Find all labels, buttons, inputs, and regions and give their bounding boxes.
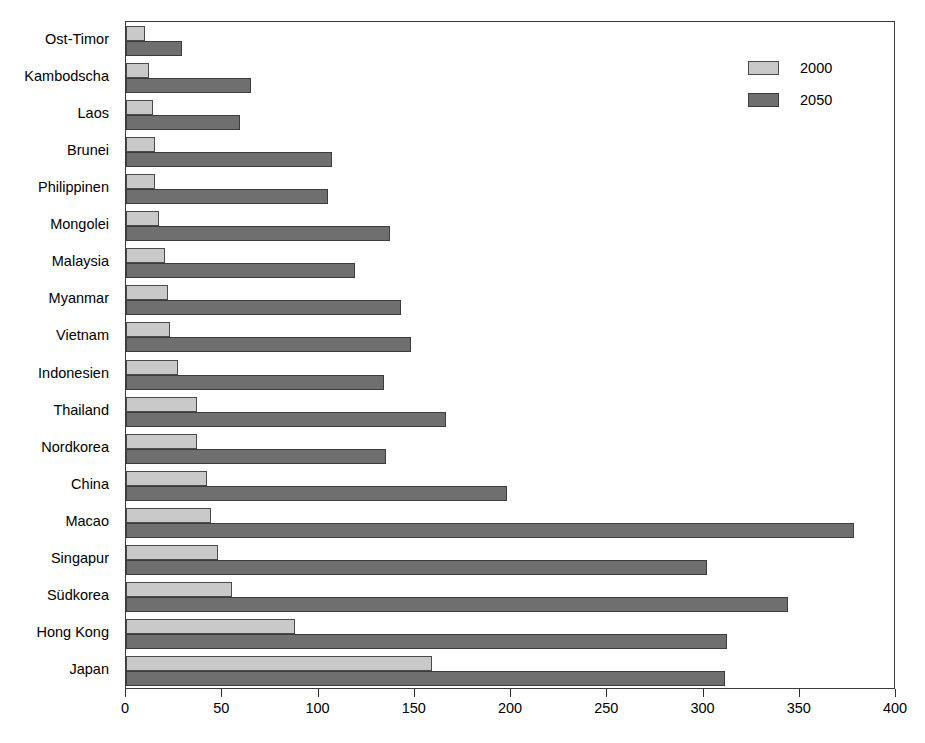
category-label: Ost-Timor [0, 32, 117, 46]
category-label: Philippinen [0, 180, 117, 194]
bar-2000-japan [126, 656, 432, 671]
bar-2000-indonesien [126, 360, 178, 375]
x-axis-tick-label: 400 [883, 700, 907, 716]
category-label: Vietnam [0, 328, 117, 342]
x-axis-tick-label: 300 [690, 700, 714, 716]
bar-chart: Ost-TimorKambodschaLaosBruneiPhilippinen… [0, 0, 925, 743]
category-label: Südkorea [0, 588, 117, 602]
category-label: China [0, 477, 117, 491]
bar-row [126, 619, 894, 649]
bar-2000-vietnam [126, 322, 170, 337]
bar-row [126, 285, 894, 315]
x-axis-tick [510, 689, 511, 697]
legend-swatch-icon [748, 93, 779, 107]
bar-2050-laos [126, 115, 240, 130]
bar-row [126, 656, 894, 686]
bar-row [126, 248, 894, 278]
x-axis: 050100150200250300350400 [125, 689, 895, 741]
bar-rows [126, 22, 894, 688]
bar-2050-hong-kong [126, 634, 727, 649]
category-label: Thailand [0, 403, 117, 417]
x-axis-tick-label: 200 [498, 700, 522, 716]
category-label: Malaysia [0, 254, 117, 268]
bar-2000-myanmar [126, 285, 168, 300]
bar-row [126, 137, 894, 167]
category-label: Japan [0, 662, 117, 676]
x-axis-tick [414, 689, 415, 697]
legend-label: 2000 [800, 60, 832, 76]
bar-row [126, 322, 894, 352]
legend-swatch-icon [748, 61, 779, 75]
category-label: Hong Kong [0, 625, 117, 639]
bar-row [126, 582, 894, 612]
x-axis-tick-label: 0 [121, 700, 129, 716]
bar-2050-brunei [126, 152, 332, 167]
bar-2050-kambodscha [126, 78, 251, 93]
x-axis-tick-label: 250 [594, 700, 618, 716]
plot-area [125, 21, 895, 689]
x-axis-tick-label: 100 [305, 700, 329, 716]
bar-2000-nordkorea [126, 434, 197, 449]
x-axis-tick-label: 350 [787, 700, 811, 716]
bar-row [126, 545, 894, 575]
legend-entry-2000: 2000 [748, 52, 878, 84]
bar-2050-indonesien [126, 375, 384, 390]
bar-2050-japan [126, 671, 725, 686]
bar-2000-singapur [126, 545, 218, 560]
bar-2000-kambodscha [126, 63, 149, 78]
bar-2050-macao [126, 523, 854, 538]
bar-2000-brunei [126, 137, 155, 152]
bar-row [126, 434, 894, 464]
bar-2000-china [126, 471, 207, 486]
bar-2050-myanmar [126, 300, 401, 315]
bar-2050-philippinen [126, 189, 328, 204]
bar-2000-laos [126, 100, 153, 115]
x-axis-tick [221, 689, 222, 697]
bar-2050-vietnam [126, 337, 411, 352]
bar-row [126, 174, 894, 204]
x-axis-tick [125, 689, 126, 697]
bar-2000-ost-timor [126, 26, 145, 41]
x-axis-tick-label: 150 [402, 700, 426, 716]
bar-2000-thailand [126, 397, 197, 412]
bar-row [126, 508, 894, 538]
bar-2050-nordkorea [126, 449, 386, 464]
category-label: Myanmar [0, 291, 117, 305]
bar-2050-thailand [126, 412, 446, 427]
bar-2050-malaysia [126, 263, 355, 278]
bar-2000-malaysia [126, 248, 165, 263]
x-axis-tick [799, 689, 800, 697]
bar-2000-s-dkorea [126, 582, 232, 597]
bar-2050-singapur [126, 560, 707, 575]
category-label: Macao [0, 514, 117, 528]
category-label: Kambodscha [0, 69, 117, 83]
bar-row [126, 471, 894, 501]
bar-2000-philippinen [126, 174, 155, 189]
x-axis-tick [895, 689, 896, 697]
x-axis-tick-label: 50 [213, 700, 229, 716]
bar-2050-mongolei [126, 226, 390, 241]
bar-2000-macao [126, 508, 211, 523]
legend-label: 2050 [800, 92, 832, 108]
bar-row [126, 211, 894, 241]
legend-entry-2050: 2050 [748, 84, 878, 116]
x-axis-tick [703, 689, 704, 697]
x-axis-tick [318, 689, 319, 697]
x-axis-tick [606, 689, 607, 697]
chart-title-remnant [125, 0, 895, 3]
bar-2050-s-dkorea [126, 597, 788, 612]
bar-2050-china [126, 486, 507, 501]
category-axis-labels: Ost-TimorKambodschaLaosBruneiPhilippinen… [0, 21, 117, 689]
category-label: Brunei [0, 143, 117, 157]
category-label: Mongolei [0, 217, 117, 231]
bar-row [126, 397, 894, 427]
bar-2050-ost-timor [126, 41, 182, 56]
category-label: Indonesien [0, 366, 117, 380]
bar-2000-mongolei [126, 211, 159, 226]
category-label: Laos [0, 106, 117, 120]
bar-2000-hong-kong [126, 619, 295, 634]
chart-legend: 20002050 [748, 52, 878, 116]
bar-row [126, 360, 894, 390]
category-label: Singapur [0, 551, 117, 565]
category-label: Nordkorea [0, 440, 117, 454]
